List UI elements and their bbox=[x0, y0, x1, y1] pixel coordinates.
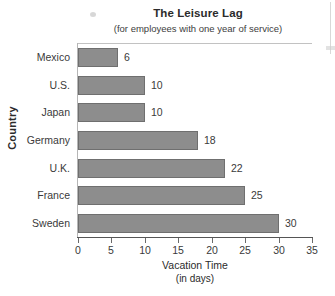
x-axis-title: Vacation Time (in days) bbox=[78, 258, 312, 285]
chart-title: The Leisure Lag bbox=[78, 6, 318, 20]
plot-area: Mexico6U.S.10Japan10Germany18U.K.22Franc… bbox=[78, 44, 312, 237]
category-label: Sweden bbox=[0, 217, 70, 230]
x-axis-title-line1: Vacation Time bbox=[78, 258, 312, 272]
x-axis-tick bbox=[178, 238, 179, 243]
x-axis-tick-label: 35 bbox=[298, 244, 326, 257]
bar-u-s bbox=[78, 76, 145, 95]
bar-germany bbox=[78, 131, 198, 150]
x-axis-tick bbox=[312, 238, 313, 243]
bar-value-label: 10 bbox=[151, 106, 163, 119]
category-label: Germany bbox=[0, 134, 70, 147]
plot-top-rule bbox=[78, 43, 312, 44]
x-axis-tick bbox=[111, 238, 112, 243]
x-axis-tick-label: 20 bbox=[198, 244, 226, 257]
x-axis-line bbox=[77, 237, 313, 238]
bar-value-label: 10 bbox=[151, 79, 163, 92]
x-axis-tick bbox=[245, 238, 246, 243]
scan-artifact-edge-smudge bbox=[326, 46, 335, 50]
bar-sweden bbox=[78, 214, 279, 233]
x-axis-tick-label: 10 bbox=[131, 244, 159, 257]
bar-value-label: 22 bbox=[231, 162, 243, 175]
x-axis-tick bbox=[78, 238, 79, 243]
x-axis-tick-label: 15 bbox=[164, 244, 192, 257]
x-axis-tick-label: 5 bbox=[97, 244, 125, 257]
x-axis-title-line2: (in days) bbox=[78, 272, 312, 285]
chart-title-block: The Leisure Lag (for employees with one … bbox=[78, 6, 318, 35]
bar-japan bbox=[78, 103, 145, 122]
x-axis-tick bbox=[145, 238, 146, 243]
category-label: U.K. bbox=[0, 162, 70, 175]
x-axis-tick-label: 25 bbox=[231, 244, 259, 257]
bar-chart: The Leisure Lag (for employees with one … bbox=[0, 0, 335, 296]
category-label: Japan bbox=[0, 106, 70, 119]
x-axis-tick bbox=[212, 238, 213, 243]
x-axis-tick-label: 30 bbox=[265, 244, 293, 257]
bar-value-label: 30 bbox=[285, 217, 297, 230]
bar-value-label: 6 bbox=[124, 51, 130, 64]
x-axis-tick bbox=[279, 238, 280, 243]
bar-u-k bbox=[78, 159, 225, 178]
category-label: U.S. bbox=[0, 79, 70, 92]
category-label: France bbox=[0, 189, 70, 202]
bar-mexico bbox=[78, 48, 118, 67]
x-axis-tick-label: 0 bbox=[64, 244, 92, 257]
category-label: Mexico bbox=[0, 51, 70, 64]
bar-value-label: 18 bbox=[204, 134, 216, 147]
bar-france bbox=[78, 186, 245, 205]
chart-subtitle: (for employees with one year of service) bbox=[78, 22, 318, 35]
bar-value-label: 25 bbox=[251, 189, 263, 202]
